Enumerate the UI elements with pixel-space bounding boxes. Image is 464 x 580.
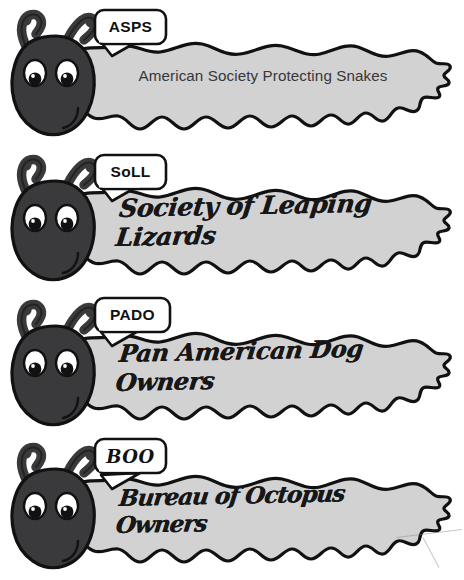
eye-left: [24, 350, 46, 376]
pupil-left: [29, 362, 42, 375]
caterpillar-body-shape: [65, 333, 450, 419]
eye-right: [56, 60, 78, 86]
caterpillar-illustration: [0, 290, 464, 435]
eye-highlight-left: [31, 219, 35, 223]
pupil-left: [29, 505, 42, 518]
pupil-left: [29, 72, 42, 85]
caterpillar-body-group: [65, 476, 450, 562]
caterpillar-head-shape: [12, 36, 94, 135]
caterpillar-body-group: [65, 188, 450, 274]
speech-bubble: [95, 10, 166, 44]
eye-left: [24, 60, 46, 86]
pupil-right: [61, 72, 74, 85]
caterpillar-body-shape: [65, 43, 450, 129]
eye-highlight-left: [31, 74, 35, 78]
eye-right: [56, 493, 78, 519]
pupil-right: [61, 217, 74, 230]
caterpillar-body-group: [65, 43, 450, 129]
eye-highlight-right: [63, 507, 67, 511]
caterpillar-head-shape: [12, 326, 94, 425]
caterpillar-head-group: [12, 14, 97, 134]
caterpillar-illustration: [0, 433, 464, 578]
caterpillar-body-shape: [65, 476, 450, 562]
caterpillar-head-group: [12, 159, 97, 279]
caterpillar-row: PADO Pan American Dog Owners: [0, 290, 464, 435]
eye-highlight-right: [63, 364, 67, 368]
eye-right: [56, 350, 78, 376]
eye-highlight-right: [63, 74, 67, 78]
caterpillar-body-group: [65, 333, 450, 419]
caterpillar-row: ASPS American Society Protecting Snakes: [0, 0, 464, 145]
eye-left: [24, 205, 46, 231]
eye-highlight-left: [31, 507, 35, 511]
caterpillar-head-group: [12, 304, 97, 424]
caterpillar-illustration: [0, 145, 464, 290]
pupil-right: [61, 362, 74, 375]
caterpillar-illustration: [0, 0, 464, 145]
eye-left: [24, 493, 46, 519]
caterpillar-head-shape: [12, 469, 94, 568]
caterpillar-row: SoLL Society of Leaping Lizards: [0, 145, 464, 290]
pupil-right: [61, 505, 74, 518]
caterpillar-head-shape: [12, 181, 94, 280]
caterpillar-poster: ASPS American Society Protecting Snakes: [0, 0, 464, 580]
caterpillar-row: BOO Bureau of Octopus Owners: [0, 433, 464, 578]
eye-highlight-left: [31, 364, 35, 368]
caterpillar-body-shape: [65, 188, 450, 274]
eye-right: [56, 205, 78, 231]
eye-highlight-right: [63, 219, 67, 223]
pupil-left: [29, 217, 42, 230]
speech-bubble: [95, 439, 166, 473]
speech-bubble: [95, 298, 170, 332]
speech-bubble: [95, 155, 166, 189]
caterpillar-head-group: [12, 447, 97, 567]
